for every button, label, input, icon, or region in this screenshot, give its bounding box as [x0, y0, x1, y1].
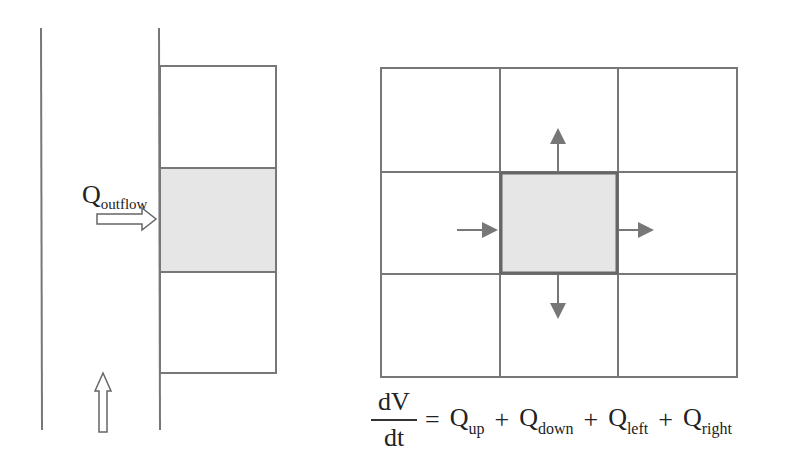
cell-middle-shaded: [160, 168, 276, 272]
term-q-down: Qdown: [519, 403, 573, 438]
term-q-right: Qright: [683, 403, 732, 438]
term-q-up: Qup: [450, 403, 485, 438]
floodplain-column: [160, 66, 276, 373]
term-q-left: Qleft: [608, 403, 648, 438]
outflow-label: Qoutflow: [82, 180, 147, 213]
river-flow-up-arrow-icon: [95, 373, 111, 432]
grid-center-cell-shaded: [501, 173, 617, 273]
cell-top: [160, 66, 276, 168]
river-left-bank: [41, 28, 42, 430]
dv-dt-fraction: dV dt: [371, 387, 417, 453]
mass-balance-equation: dV dt = Qup + Qdown + Qleft + Qright: [371, 380, 732, 460]
cell-bottom: [160, 272, 276, 373]
